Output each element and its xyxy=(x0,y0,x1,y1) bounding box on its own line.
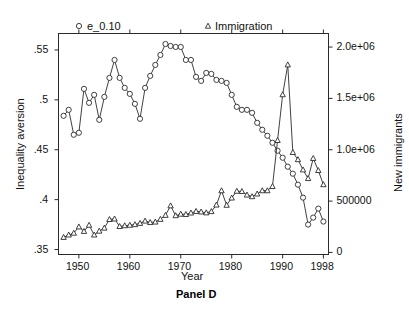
y-left-tick-label: .55 xyxy=(34,43,49,55)
y-right-tick-label: 0 xyxy=(337,245,343,257)
y-right-tick-label: 1.5e+06 xyxy=(337,91,375,103)
panel-caption: Panel D xyxy=(176,288,216,300)
x-axis-title: Year xyxy=(181,270,203,282)
x-tick-label: 1960 xyxy=(117,260,140,272)
y-left-axis-title: Inequality aversion xyxy=(14,98,26,190)
y-right-tick-label: 500000 xyxy=(337,194,372,206)
x-tick-label: 1998 xyxy=(310,260,333,272)
x-tick-label: 1980 xyxy=(219,260,242,272)
chart-panel: e_0.10 Immigration 195019601970198019901… xyxy=(0,0,409,312)
x-tick-label: 1990 xyxy=(270,260,293,272)
y-right-tick-label: 2.0e+06 xyxy=(337,40,375,52)
legend-triangle-marker xyxy=(205,23,210,28)
y-left-tick-label: .35 xyxy=(34,243,49,255)
y-right-axis-title: New immigrants xyxy=(392,113,404,192)
legend-label-e010: e_0.10 xyxy=(87,20,121,32)
y-left-tick-label: .4 xyxy=(39,193,48,205)
legend-label-immigration: Immigration xyxy=(215,20,272,32)
x-tick-label: 1950 xyxy=(66,260,89,272)
y-left-tick-label: .45 xyxy=(34,143,49,155)
y-right-tick-label: 1.0e+06 xyxy=(337,143,375,155)
y-left-tick-label: .5 xyxy=(39,93,48,105)
legend-circle-marker xyxy=(76,23,81,28)
